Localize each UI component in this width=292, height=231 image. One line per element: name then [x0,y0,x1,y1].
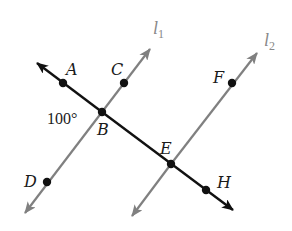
geometry-diagram: A C B D E F H 100° l1 l2 [0,0,292,231]
label-a: A [64,60,78,79]
point-b [98,108,106,116]
point-f [228,79,236,87]
label-l2: l2 [264,30,275,53]
line-l1 [25,49,150,213]
point-a [59,79,67,87]
point-e [167,160,175,168]
point-c [120,79,128,87]
point-d [43,178,51,186]
label-f: F [212,68,225,87]
label-e: E [159,139,172,158]
label-b: B [96,120,109,139]
label-l1: l1 [153,18,164,41]
label-c: C [111,60,123,79]
line-l2 [132,53,257,216]
point-h [202,186,210,194]
label-h: H [216,173,232,192]
label-d: D [23,172,37,191]
angle-label-b: 100° [47,110,77,127]
